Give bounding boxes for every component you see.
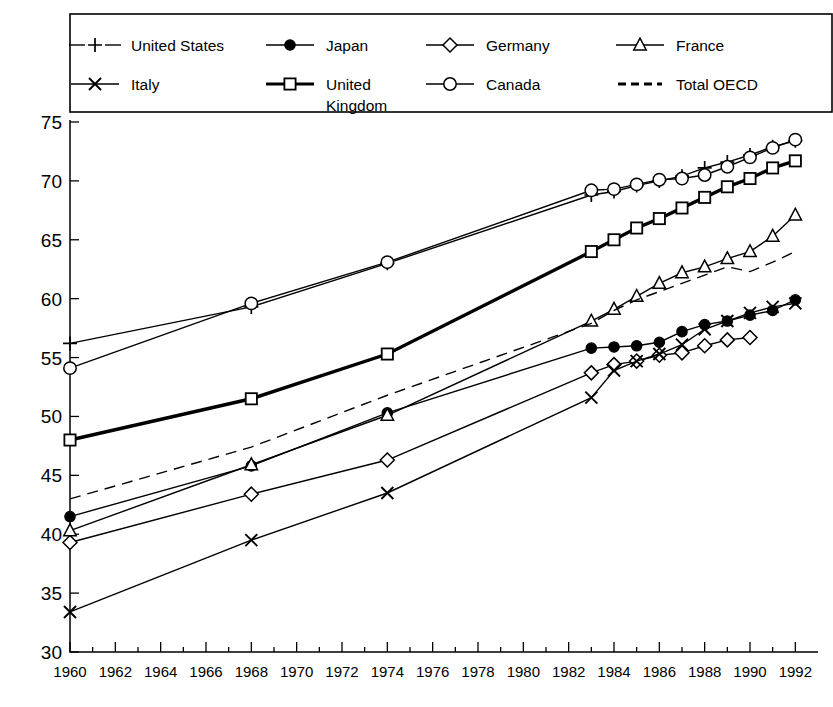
legend-label: Kingdom (326, 97, 387, 114)
y-tick-label: 35 (41, 583, 62, 604)
marker-triangle (789, 208, 801, 220)
marker-diamond (698, 339, 712, 353)
x-tick-label: 1992 (779, 663, 812, 680)
y-tick-label: 55 (41, 348, 62, 369)
x-tick-label: 1970 (280, 663, 313, 680)
x-tick-label: 1976 (416, 663, 449, 680)
series-path (70, 252, 795, 499)
x-tick-label: 1990 (733, 663, 766, 680)
marker-square (64, 434, 75, 445)
marker-circle (245, 297, 257, 309)
series-total-oecd (70, 252, 795, 499)
legend-label: United (326, 76, 371, 93)
y-tick-label: 65 (41, 230, 62, 251)
marker-square (284, 78, 295, 89)
legend: United StatesJapanGermanyFranceItalyUnit… (69, 14, 832, 114)
series-france (64, 208, 802, 535)
marker-circle (630, 178, 642, 190)
marker-filled-circle (609, 342, 619, 352)
x-tick-label: 1986 (643, 663, 676, 680)
y-tick-label: 45 (41, 465, 62, 486)
x-tick-label: 1968 (235, 663, 268, 680)
marker-square (586, 246, 597, 257)
legend-label: Canada (486, 76, 541, 93)
marker-square (382, 348, 393, 359)
marker-filled-circle (65, 511, 75, 521)
y-tick-label: 70 (41, 171, 62, 192)
series-group (63, 133, 802, 617)
marker-square (744, 173, 755, 184)
marker-circle (789, 133, 801, 145)
x-tick-label: 1960 (53, 663, 86, 680)
legend-label: Total OECD (676, 76, 758, 93)
marker-filled-circle (677, 326, 687, 336)
y-tick-label: 40 (41, 524, 62, 545)
marker-circle (676, 172, 688, 184)
marker-circle (653, 174, 665, 186)
legend-label: France (676, 37, 724, 54)
marker-square (699, 192, 710, 203)
marker-cross (585, 392, 597, 404)
marker-diamond (380, 453, 394, 467)
marker-triangle (653, 277, 665, 289)
marker-circle (64, 362, 76, 374)
marker-circle (766, 142, 778, 154)
series-path (70, 215, 795, 531)
marker-diamond (675, 346, 689, 360)
legend-label: Japan (326, 37, 368, 54)
x-tick-label: 1984 (597, 663, 630, 680)
x-tick-label: 1962 (99, 663, 132, 680)
y-tick-label: 75 (41, 112, 62, 133)
marker-square (608, 234, 619, 245)
marker-cross (381, 487, 393, 499)
marker-square (676, 202, 687, 213)
chart-page: 3035404550556065707519601962196419661968… (0, 0, 833, 707)
marker-square (631, 222, 642, 233)
line-chart: 3035404550556065707519601962196419661968… (0, 0, 833, 707)
marker-diamond (584, 366, 598, 380)
x-tick-label: 1988 (688, 663, 721, 680)
series-germany (63, 331, 757, 550)
series-united-kingdom (64, 155, 801, 445)
marker-plus (63, 336, 77, 350)
marker-circle (381, 256, 393, 268)
series-united-states (63, 134, 802, 351)
x-tick-label: 1978 (461, 663, 494, 680)
marker-cross (245, 534, 257, 546)
marker-filled-circle (654, 337, 664, 347)
x-tick-label: 1982 (552, 663, 585, 680)
marker-diamond (63, 535, 77, 549)
marker-circle (721, 161, 733, 173)
marker-square (767, 162, 778, 173)
y-tick-label: 30 (41, 642, 62, 663)
marker-square (722, 181, 733, 192)
marker-square (790, 155, 801, 166)
x-tick-label: 1980 (507, 663, 540, 680)
y-tick-label: 50 (41, 406, 62, 427)
marker-diamond (244, 487, 258, 501)
marker-filled-circle (586, 343, 596, 353)
x-tick-label: 1964 (144, 663, 177, 680)
marker-diamond (720, 333, 734, 347)
legend-label: United States (131, 37, 224, 54)
marker-square (654, 213, 665, 224)
marker-filled-circle (631, 341, 641, 351)
series-path (70, 141, 795, 344)
marker-square (246, 393, 257, 404)
marker-circle (585, 184, 597, 196)
marker-circle (744, 151, 756, 163)
legend-label: Italy (131, 76, 160, 93)
legend-label: Germany (486, 37, 550, 54)
x-tick-label: 1972 (325, 663, 358, 680)
series-japan (65, 295, 801, 522)
marker-filled-circle (285, 40, 295, 50)
marker-diamond (743, 331, 757, 345)
x-tick-label: 1974 (371, 663, 404, 680)
y-tick-label: 60 (41, 289, 62, 310)
series-path (70, 338, 750, 543)
marker-circle (698, 169, 710, 181)
marker-triangle (744, 245, 756, 257)
marker-circle (444, 78, 456, 90)
legend-box (70, 14, 832, 112)
x-tick-label: 1966 (189, 663, 222, 680)
